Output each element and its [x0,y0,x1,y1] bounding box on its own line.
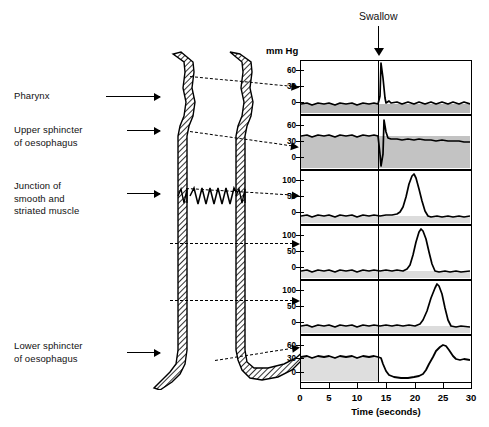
anatomy-label-pharynx: Pharynx [14,90,50,103]
ytick-mark-upper-sphincter-60 [296,125,304,126]
xtick-mark-5 [329,382,330,389]
ytick-mark-upper-sphincter-30 [296,141,304,142]
trace-svg-pharynx [301,61,470,113]
ytick-mark-mid-0 [296,267,304,268]
ytick-mark-pharynx-30 [296,86,304,87]
trace-svg-junction [301,171,470,223]
ytick-upper-sphincter-0: 0 [276,153,296,162]
xtick-label-20: 20 [405,392,425,403]
ytick-mid-oesophagus-0: 0 [270,263,296,272]
esophageal-manometry-figure: Pharynx Upper sphincter of oesophagus Ju… [0,0,489,427]
ytick-mark-pharynx-0 [296,102,304,103]
ytick-lower-sphincter-0: 0 [276,368,296,377]
ytick-junction-50: 50 [270,192,296,201]
ytick-upper-sphincter-30: 30 [276,137,296,146]
xtick-mark-25 [443,382,444,389]
ytick-pharynx-60: 60 [276,66,296,75]
swallow-line-panel-4 [378,225,379,280]
xtick-mark-10 [357,382,358,389]
ytick-mid-oesophagus-50: 50 [270,247,296,256]
ytick-junction-100: 100 [270,176,296,185]
trace-panel-mid-oesophagus [300,225,472,280]
swallow-line-panel-5 [378,280,379,335]
swallow-arrow-head [374,48,384,56]
ytick-distal-oesophagus-50: 50 [270,302,296,311]
ytick-mark-lower-0 [296,372,304,373]
ytick-distal-oesophagus-100: 100 [270,286,296,295]
ytick-mark-lower-60 [296,345,304,346]
ytick-mark-mid-100 [296,235,304,236]
trace-svg-upper-sphincter [301,116,470,168]
ytick-mark-pharynx-60 [296,70,304,71]
yaxis-units-label: mm Hg [266,45,298,56]
xtick-label-30: 30 [461,392,481,403]
ytick-mark-lower-30 [296,358,304,359]
swallow-line-panel-6 [378,335,379,383]
anatomy-label-lower-sphincter: Lower sphincter of oesophagus [14,340,83,365]
xtick-mark-30 [471,382,472,389]
xaxis-title: Time (seconds) [286,406,486,417]
xtick-mark-15 [386,382,387,389]
swallow-line-panel-2 [378,115,379,170]
ytick-mark-junction-0 [296,212,304,213]
ytick-mark-distal-100 [296,290,304,291]
trace-svg-mid-oesophagus [301,226,470,278]
trace-svg-lower-sphincter [301,336,470,381]
ytick-pharynx-30: 30 [276,82,296,91]
trace-panel-lower-sphincter [300,335,472,383]
xtick-mark-20 [415,382,416,389]
trace-svg-distal-oesophagus [301,281,470,333]
ytick-lower-sphincter-30: 30 [276,354,296,363]
leader-line-mid-oesophagus [170,243,298,244]
ytick-pharynx-0: 0 [276,98,296,107]
ytick-lower-sphincter-60: 60 [276,341,296,350]
leader-line-distal-oesophagus [170,300,298,301]
ytick-mark-mid-50 [296,251,304,252]
xtick-label-10: 10 [347,392,367,403]
xtick-mark-0 [300,382,301,389]
ytick-junction-0: 0 [270,208,296,217]
ytick-mark-distal-0 [296,322,304,323]
xtick-label-5: 5 [319,392,339,403]
ytick-distal-oesophagus-0: 0 [270,318,296,327]
ytick-mark-junction-100 [296,180,304,181]
xtick-label-0: 0 [290,392,310,403]
trace-panel-pharynx [300,60,472,115]
swallow-arrow-shaft [378,26,379,50]
ytick-mark-junction-50 [296,196,304,197]
anatomy-label-upper-sphincter: Upper sphincter of oesophagus [14,124,83,149]
trace-panel-distal-oesophagus [300,280,472,335]
trace-panel-upper-sphincter [300,115,472,170]
xtick-label-15: 15 [376,392,396,403]
oesophagus-outline-left [154,52,195,390]
ytick-mark-upper-sphincter-0 [296,157,304,158]
swallow-annotation-label: Swallow [359,10,398,22]
ytick-upper-sphincter-60: 60 [276,121,296,130]
swallow-line-panel-1 [378,60,379,115]
swallow-line-panel-3 [378,170,379,225]
ytick-mid-oesophagus-100: 100 [270,231,296,240]
xtick-label-25: 25 [433,392,453,403]
ytick-mark-distal-50 [296,306,304,307]
trace-panel-junction [300,170,472,225]
anatomy-label-junction: Junction of smooth and striated muscle [14,180,79,218]
